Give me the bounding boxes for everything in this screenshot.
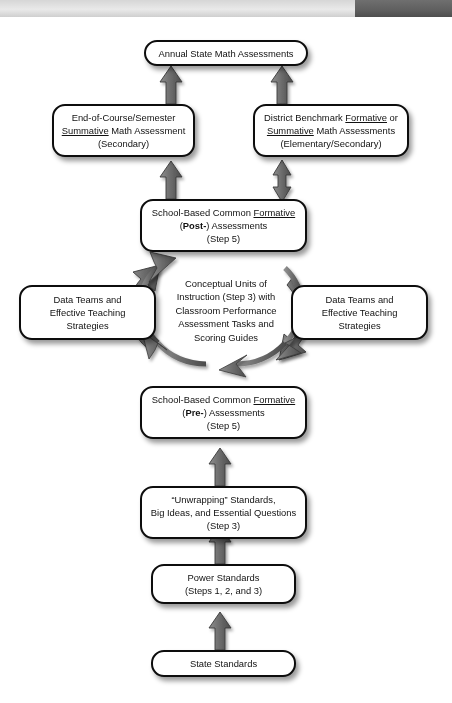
node-line-underlined-summative: Summative Math Assessments [261, 124, 401, 137]
arrow-post-to-district [273, 160, 291, 202]
node-line: Strategies [27, 319, 148, 332]
arrow-eoc-to-annual [160, 66, 182, 104]
node-line: (Step 5) [148, 419, 299, 432]
cycle-line: Instruction (Step 3) with [166, 290, 286, 303]
node-line-underlined-summative: Summative Math Assessment [60, 124, 187, 137]
node-line: Effective Teaching [299, 306, 420, 319]
cycle-line: Assessment Tasks and [166, 317, 286, 330]
node-line-underlined-formative: School-Based Common Formative [148, 393, 299, 406]
node-line-bold-pre: (Pre-) Assessments [148, 406, 299, 419]
arrow-unwrapping-to-pre [209, 448, 231, 486]
cycle-line: Scoring Guides [166, 331, 286, 344]
arrow-district-to-annual [271, 66, 293, 104]
node-data-teams-left[interactable]: Data Teams and Effective Teaching Strate… [19, 285, 156, 340]
node-line-underlined-formative: District Benchmark Formative or [261, 111, 401, 124]
node-line-bold-post: (Post-) Assessments [148, 219, 299, 232]
node-school-based-common-formative-post[interactable]: School-Based Common Formative (Post-) As… [140, 199, 307, 252]
node-line: (Secondary) [60, 137, 187, 150]
node-line: State Standards [159, 657, 288, 670]
node-state-standards[interactable]: State Standards [151, 650, 296, 677]
node-line-underlined-formative: School-Based Common Formative [148, 206, 299, 219]
node-line: Data Teams and [299, 293, 420, 306]
node-line: (Step 3) [148, 519, 299, 532]
node-unwrapping-standards[interactable]: “Unwrapping” Standards, Big Ideas, and E… [140, 486, 307, 539]
node-line: Effective Teaching [27, 306, 148, 319]
node-district-benchmark[interactable]: District Benchmark Formative or Summativ… [253, 104, 409, 157]
node-line: Strategies [299, 319, 420, 332]
node-line: “Unwrapping” Standards, [148, 493, 299, 506]
node-annual-state-math-assessments[interactable]: Annual State Math Assessments [144, 40, 308, 66]
node-line: (Step 5) [148, 232, 299, 245]
cycle-line: Conceptual Units of [166, 277, 286, 290]
diagram-page: Annual State Math Assessments End-of-Cou… [0, 0, 452, 703]
node-line: Data Teams and [27, 293, 148, 306]
node-line: Power Standards [159, 571, 288, 584]
node-power-standards[interactable]: Power Standards (Steps 1, 2, and 3) [151, 564, 296, 604]
arrow-post-to-eoc [160, 161, 182, 199]
node-line: End-of-Course/Semester [60, 111, 187, 124]
node-end-of-course-semester-summative[interactable]: End-of-Course/Semester Summative Math As… [52, 104, 195, 157]
node-data-teams-right[interactable]: Data Teams and Effective Teaching Strate… [291, 285, 428, 340]
cycle-line: Classroom Performance [166, 304, 286, 317]
node-line: Annual State Math Assessments [159, 48, 294, 59]
cycle-center-conceptual-units: Conceptual Units of Instruction (Step 3)… [166, 277, 286, 344]
node-line: (Elementary/Secondary) [261, 137, 401, 150]
node-line: (Steps 1, 2, and 3) [159, 584, 288, 597]
arrow-state-to-power [209, 612, 231, 650]
node-line: Big Ideas, and Essential Questions [148, 506, 299, 519]
node-school-based-common-formative-pre[interactable]: School-Based Common Formative (Pre-) Ass… [140, 386, 307, 439]
